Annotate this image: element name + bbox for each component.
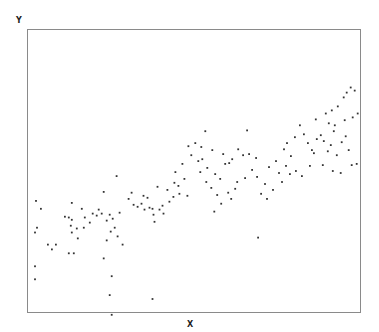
data-point [128,198,130,200]
data-point [301,175,303,177]
data-point [182,163,184,165]
data-point [163,213,165,215]
data-point [153,214,155,216]
data-point [224,163,226,165]
data-point [34,278,36,280]
data-point [344,119,346,121]
data-point [71,202,73,204]
data-point [327,150,329,152]
data-point [131,192,133,194]
data-point [242,154,244,156]
data-point [234,188,236,190]
data-point [286,142,288,144]
data-point [210,187,212,189]
data-point [110,231,112,233]
data-point [92,213,94,215]
data-point [141,203,143,205]
data-point [111,275,113,277]
data-point [199,171,201,173]
data-point [348,149,350,151]
data-point [101,213,103,215]
data-point [211,149,213,151]
data-point [341,141,343,143]
data-point [222,153,224,155]
data-point [336,154,338,156]
data-point [334,124,336,126]
data-point [333,130,335,132]
data-point [40,208,42,210]
data-point [299,124,301,126]
data-point [184,178,186,180]
data-point [322,164,324,166]
data-point [343,97,345,99]
data-point [311,149,313,151]
data-point [111,314,113,316]
data-point [117,236,119,238]
plot-frame [28,30,361,313]
data-point [289,173,291,175]
data-point [332,170,334,172]
data-point [197,160,199,162]
data-point [169,201,171,203]
data-point [188,145,190,147]
data-point [179,193,181,195]
data-point [268,166,270,168]
data-point [350,87,352,89]
data-point [103,191,105,193]
x-axis-label: X [187,320,193,329]
data-point [167,189,169,191]
data-point [244,177,246,179]
data-point [194,142,196,144]
data-point [34,232,36,234]
data-point [187,195,189,197]
data-point [331,110,333,112]
data-point [149,207,151,209]
data-point [236,181,238,183]
data-point [157,186,159,188]
data-point [96,215,98,217]
data-point [47,244,49,246]
data-point [73,252,75,254]
data-point [264,183,266,185]
data-point [35,200,37,202]
data-point [356,163,358,165]
data-point [255,157,257,159]
data-point [76,228,78,230]
data-point [137,206,139,208]
data-point [220,203,222,205]
data-point [81,208,83,210]
data-point [106,240,108,242]
data-point [320,134,322,136]
data-point [256,176,258,178]
data-point [352,117,354,119]
data-point [133,204,135,206]
data-point [144,209,146,211]
y-axis-label: Y [16,16,22,25]
data-point [216,194,218,196]
data-point [251,169,253,171]
data-point [323,140,325,142]
data-point [285,165,287,167]
data-point [231,158,233,160]
data-point [162,205,164,207]
data-point [246,130,248,132]
data-point [204,130,206,132]
data-point [283,148,285,150]
data-point [109,294,111,296]
data-point [315,119,317,121]
data-point [275,160,277,162]
data-point [51,249,53,251]
data-point [205,181,207,183]
data-point [354,90,356,92]
data-point [351,164,353,166]
data-point [219,178,221,180]
data-point [68,217,70,219]
data-point [114,227,116,229]
data-point [307,142,309,144]
data-point [340,172,342,174]
data-point [213,211,215,213]
data-points [34,87,358,316]
data-point [175,171,177,173]
data-point [84,217,86,219]
data-point [309,165,311,167]
